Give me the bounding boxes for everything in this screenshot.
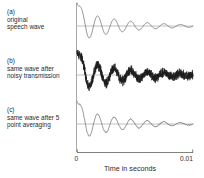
panel-c-caption-line2: point averaging <box>7 121 51 129</box>
panel-b-caption-line2: noisy transmission <box>7 72 60 80</box>
panel-b-caption-line1: same wave after <box>7 65 55 72</box>
panel-a-caption-line2: speech wave <box>7 23 45 31</box>
panel-c-caption-line1: same wave after 5 <box>7 114 60 121</box>
speech-wave-figure: (a) original speech wave (b) same wave a… <box>0 0 204 178</box>
x-tick-label-max: 0.01 <box>180 155 193 162</box>
x-axis-title: Time in seconds <box>104 164 156 173</box>
x-tick-label-min: 0 <box>75 155 79 162</box>
